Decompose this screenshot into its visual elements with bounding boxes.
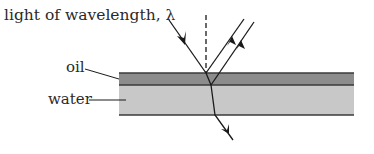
incident-ray xyxy=(169,20,206,73)
oil-label: oil xyxy=(66,58,85,76)
reflected-arrow-interface-icon xyxy=(236,40,245,50)
water-label: water xyxy=(48,90,92,108)
oil-leader-line xyxy=(85,69,119,79)
oil-layer xyxy=(119,73,354,85)
light-wavelength-label: light of wavelength, λ xyxy=(4,6,175,24)
water-layer xyxy=(119,85,354,115)
